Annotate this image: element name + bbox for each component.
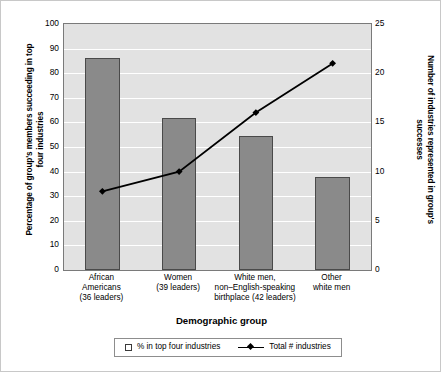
y-axis-left-tick-label: 60 (33, 117, 59, 125)
y-axis-left-tick-label: 80 (33, 68, 59, 76)
chart-figure: Percentage of group's members succeeding… (0, 0, 441, 372)
legend-label-line: Total # industries (269, 343, 330, 351)
y-axis-left-tick-label: 10 (33, 240, 59, 248)
y-axis-left-tick-label: 50 (33, 142, 59, 150)
line-marker (99, 188, 106, 195)
line-series (64, 24, 371, 270)
legend-entry-bars: % in top four industries (125, 343, 220, 351)
y-axis-left-tick-label: 90 (33, 44, 59, 52)
y-axis-left-tick-label: 30 (33, 191, 59, 199)
legend-entry-line: Total # industries (238, 343, 330, 351)
y-axis-right-tick-label: 10 (375, 167, 401, 175)
y-axis-left-tick-label: 70 (33, 93, 59, 101)
y-axis-left-tick-label: 40 (33, 167, 59, 175)
y-axis-right-tick-label: 5 (375, 216, 401, 224)
legend-label-bars: % in top four industries (137, 343, 220, 351)
y-axis-right-tick-label: 20 (375, 68, 401, 76)
y-axis-right-tick-label: 25 (375, 19, 401, 27)
plot-area (63, 23, 372, 271)
y-axis-right-tick-label: 15 (375, 117, 401, 125)
y-axis-left-tick-label: 20 (33, 216, 59, 224)
y-axis-left-tick-label: 100 (33, 19, 59, 27)
x-axis-tick-labels: African Americans (36 leaders)Women (39 … (63, 273, 372, 313)
y-axis-right-title: Number of industries represented in grou… (414, 40, 435, 240)
square-outline-icon (125, 344, 132, 351)
x-axis-title: Demographic group (1, 315, 441, 326)
line-diamond-icon (238, 343, 264, 351)
line-path (102, 63, 332, 191)
x-axis-tick-label: Other white men (284, 273, 379, 293)
y-axis-left-ticks: 0102030405060708090100 (31, 23, 59, 269)
y-axis-right-ticks: 0510152025 (375, 23, 403, 269)
chart-legend: % in top four industries Total # industr… (114, 338, 342, 357)
